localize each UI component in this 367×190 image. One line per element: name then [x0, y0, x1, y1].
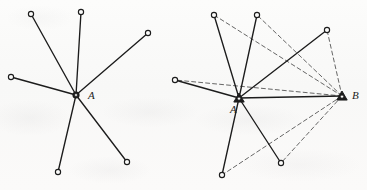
solid-edge-A-R1 — [214, 15, 239, 98]
outer-node-L2[interactable] — [78, 9, 83, 14]
outer-node-L6[interactable] — [124, 159, 129, 164]
solid-edge-A-L6 — [76, 95, 127, 162]
dashed-edge-B-R6 — [281, 96, 342, 163]
outer-node-L1[interactable] — [28, 11, 33, 16]
solid-edge-A-L4 — [11, 77, 76, 95]
outer-node-R3[interactable] — [324, 27, 329, 32]
star-graph-center-a-plus-b — [172, 12, 347, 177]
dashed-edge-B-R3 — [327, 30, 342, 96]
star-graph-center-a — [8, 9, 150, 174]
vertex-a-left-panel-inner-dot — [75, 94, 78, 97]
solid-edge-A-L2 — [76, 12, 81, 95]
vertex-a-right-panel-inner-dot — [237, 97, 240, 100]
solid-edge-A-R6 — [239, 98, 281, 163]
dashed-edge-B-R2 — [257, 15, 342, 96]
vertex-label-b-right: B — [352, 90, 359, 101]
vertex-label-a-left: A — [88, 90, 95, 101]
vertex-label-a-right: A — [230, 104, 237, 115]
outer-node-L4[interactable] — [8, 74, 13, 79]
solid-edge-A-L5 — [58, 95, 76, 172]
outer-node-R6[interactable] — [278, 160, 283, 165]
solid-edge-A-B — [239, 96, 342, 98]
figure-canvas: A A B — [0, 0, 367, 190]
outer-node-L5[interactable] — [55, 169, 60, 174]
solid-edge-A-L3 — [76, 33, 148, 95]
outer-node-R4[interactable] — [172, 77, 177, 82]
outer-node-R5[interactable] — [219, 172, 224, 177]
outer-node-L3[interactable] — [145, 30, 150, 35]
solid-edge-A-L1 — [31, 14, 76, 95]
outer-node-R2[interactable] — [254, 12, 259, 17]
vertex-b-right-panel-inner-dot — [340, 95, 343, 98]
dashed-edge-B-R1 — [214, 15, 342, 96]
outer-node-R1[interactable] — [211, 12, 216, 17]
diagram-svg — [0, 0, 367, 190]
